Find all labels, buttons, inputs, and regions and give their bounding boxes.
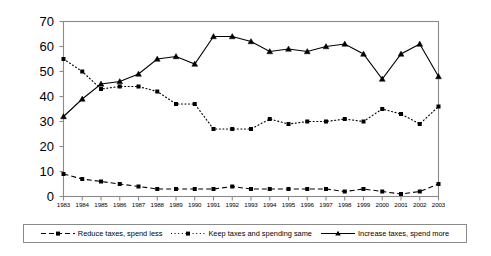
- data-point-marker: [212, 187, 216, 191]
- data-point-marker: [99, 87, 103, 91]
- data-point-marker: [268, 187, 272, 191]
- data-point-marker: [342, 41, 348, 46]
- data-point-marker: [155, 90, 159, 94]
- data-point-marker: [137, 85, 141, 89]
- data-point-marker: [62, 57, 66, 61]
- legend-entry-1: Keep taxes and spending same: [171, 229, 312, 238]
- data-point-marker: [118, 85, 122, 89]
- data-point-marker: [230, 185, 234, 189]
- data-point-marker: [249, 187, 253, 191]
- y-axis-tick-label: 50: [18, 65, 54, 78]
- series-line-1: [64, 59, 439, 129]
- y-axis-tick-label: 20: [18, 140, 54, 153]
- data-point-marker: [324, 187, 328, 191]
- y-axis-tick-label: 30: [18, 115, 54, 128]
- chart-plot-area: [0, 0, 491, 256]
- y-axis-tick-label: 60: [18, 40, 54, 53]
- legend-swatch-dotted: [171, 229, 205, 238]
- data-point-marker: [137, 185, 141, 189]
- data-point-marker: [380, 190, 384, 194]
- data-series-group: [61, 34, 442, 196]
- data-point-marker: [286, 46, 292, 51]
- y-axis-tick-label: 70: [18, 15, 54, 28]
- data-point-marker: [399, 192, 403, 196]
- data-point-marker: [230, 127, 234, 131]
- data-point-marker: [80, 177, 84, 181]
- legend-label: Keep taxes and spending same: [208, 230, 312, 238]
- y-axis-tick-label: 0: [18, 190, 54, 203]
- legend-swatch-dashed: [41, 229, 75, 238]
- data-point-marker: [398, 51, 404, 56]
- line-chart: 010203040506070 198319841985198619871988…: [0, 0, 491, 256]
- y-axis-tick-label: 10: [18, 165, 54, 178]
- data-point-marker: [118, 182, 122, 186]
- legend-label: Increase taxes, spend more: [358, 230, 449, 238]
- data-point-marker: [343, 190, 347, 194]
- legend-entry-2: Increase taxes, spend more: [321, 229, 449, 238]
- data-point-marker: [399, 112, 403, 116]
- y-axis-tick-label: 40: [18, 90, 54, 103]
- data-point-marker: [62, 172, 66, 176]
- data-point-marker: [436, 74, 442, 79]
- data-point-marker: [324, 120, 328, 124]
- data-point-marker: [268, 117, 272, 121]
- data-point-marker: [417, 41, 423, 46]
- data-point-marker: [174, 187, 178, 191]
- data-point-marker: [212, 127, 216, 131]
- legend-label: Reduce taxes, spend less: [78, 230, 163, 238]
- data-point-marker: [193, 187, 197, 191]
- data-point-marker: [193, 102, 197, 106]
- data-point-marker: [99, 180, 103, 184]
- data-point-marker: [418, 122, 422, 126]
- data-point-marker: [305, 187, 309, 191]
- data-point-marker: [437, 105, 441, 109]
- data-point-marker: [174, 102, 178, 106]
- legend-entry-0: Reduce taxes, spend less: [41, 229, 163, 238]
- data-point-marker: [418, 190, 422, 194]
- legend-swatch-solid: [321, 229, 355, 238]
- data-point-marker: [380, 107, 384, 111]
- data-point-marker: [362, 187, 366, 191]
- chart-legend: Reduce taxes, spend lessKeep taxes and s…: [23, 224, 467, 243]
- data-point-marker: [287, 187, 291, 191]
- data-point-marker: [361, 51, 367, 56]
- x-axis-tick-label: 2003: [427, 201, 451, 208]
- data-point-marker: [287, 122, 291, 126]
- data-point-marker: [155, 187, 159, 191]
- data-point-marker: [437, 182, 441, 186]
- data-point-marker: [80, 70, 84, 74]
- data-point-marker: [362, 120, 366, 124]
- data-point-marker: [305, 120, 309, 124]
- data-point-marker: [173, 54, 179, 59]
- data-point-marker: [343, 117, 347, 121]
- data-point-marker: [249, 127, 253, 131]
